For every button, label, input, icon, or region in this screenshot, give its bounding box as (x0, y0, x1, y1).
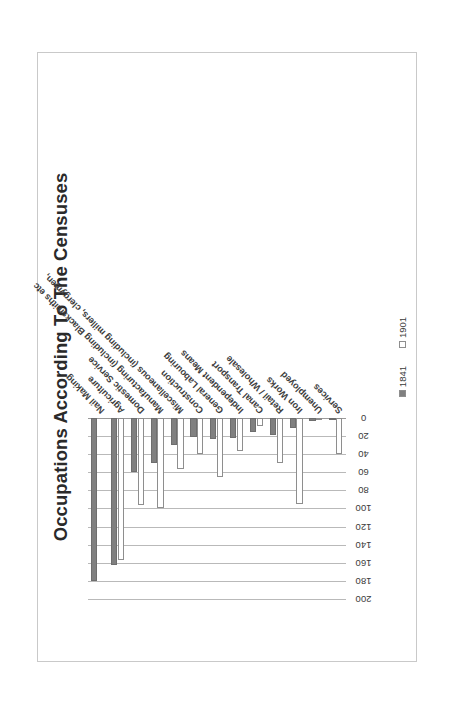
bar-1901-12 (316, 418, 322, 420)
bar-group (127, 418, 147, 599)
bar-1841-2 (111, 418, 117, 565)
bar-1841-5 (170, 418, 176, 445)
tick-label-20: 20 (346, 431, 380, 442)
bar-group (286, 418, 306, 599)
tick-label-100: 100 (346, 503, 380, 514)
bar-1841-6 (190, 418, 196, 437)
bar-1841-1 (91, 418, 97, 581)
chart-title: Occupations According To The Censuses (50, 53, 72, 661)
chart-legend: 18411901 (396, 53, 408, 661)
bar-1901-11 (296, 418, 302, 504)
bar-group (326, 418, 346, 599)
bar-1841-12 (309, 418, 315, 421)
bar-1841-10 (269, 418, 275, 435)
bar-group (88, 418, 108, 599)
bar-group (207, 418, 227, 599)
bar-group (226, 418, 246, 599)
scanned-page: Occupations According To The Censuses 02… (0, 0, 455, 712)
legend-label: 1841 (397, 366, 408, 387)
legend-swatch-icon (399, 390, 406, 397)
bar-group (306, 418, 326, 599)
bar-1901-13 (336, 418, 342, 454)
bar-1841-4 (150, 418, 156, 463)
tick-label-40: 40 (346, 449, 380, 460)
chart-frame: Occupations According To The Censuses 02… (37, 52, 417, 662)
tick-label-160: 160 (346, 557, 380, 568)
plot-area (88, 418, 346, 599)
bar-1901-7 (216, 418, 222, 477)
bar-1901-2 (117, 418, 123, 560)
bar-group (147, 418, 167, 599)
legend-swatch-icon (399, 341, 406, 348)
bar-1901-10 (276, 418, 282, 463)
bar-1841-7 (210, 418, 216, 439)
bar-1841-13 (329, 418, 335, 420)
rotated-chart-wrapper: Occupations According To The Censuses 02… (37, 50, 419, 662)
tick-label-140: 140 (346, 539, 380, 550)
tick-label-200: 200 (346, 594, 380, 605)
tick-label-80: 80 (346, 485, 380, 496)
bar-1841-9 (249, 418, 255, 432)
bar-1841-11 (289, 418, 295, 428)
legend-item-1841[interactable]: 1841 (396, 366, 408, 397)
legend-item-1901[interactable]: 1901 (396, 317, 408, 348)
bar-1901-5 (177, 418, 183, 469)
bar-1901-9 (256, 418, 262, 426)
bar-1841-8 (230, 418, 236, 438)
tick-label-180: 180 (346, 575, 380, 586)
bar-1901-6 (197, 418, 203, 454)
bar-1901-8 (236, 418, 242, 451)
tick-label-120: 120 (346, 521, 380, 532)
tick-label-60: 60 (346, 467, 380, 478)
bar-group (266, 418, 286, 599)
tick-label-0: 0 (346, 413, 380, 424)
bar-1901-4 (157, 418, 163, 509)
bar-group (167, 418, 187, 599)
bar-1841-3 (130, 418, 136, 472)
gridline (88, 599, 346, 600)
legend-label: 1901 (397, 317, 408, 338)
bar-group (107, 418, 127, 599)
bar-1901-3 (137, 418, 143, 505)
bar-group (246, 418, 266, 599)
bar-group (187, 418, 207, 599)
